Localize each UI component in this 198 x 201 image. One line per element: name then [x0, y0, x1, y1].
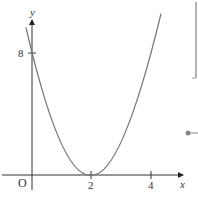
y-axis-label: y	[29, 6, 35, 18]
origin-label: O	[18, 176, 27, 190]
x-axis-label: x	[179, 178, 185, 190]
parabola-curve	[26, 14, 161, 175]
y-tick-label-8: 8	[18, 47, 24, 59]
x-tick-label-4: 4	[148, 179, 154, 191]
x-tick-label-2: 2	[88, 179, 94, 191]
parabola-chart: y x O 2 4 8	[0, 0, 198, 201]
